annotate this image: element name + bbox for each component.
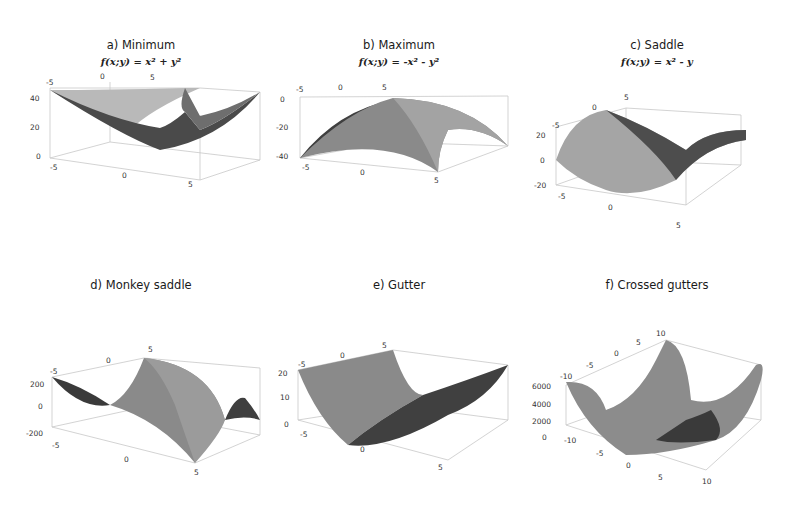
svg-text:0: 0 — [626, 461, 631, 470]
svg-text:4000: 4000 — [532, 400, 551, 409]
svg-text:5: 5 — [676, 221, 681, 230]
svg-text:-5: -5 — [552, 121, 560, 130]
svg-text:0: 0 — [36, 152, 41, 161]
surface-plot-gutter: -505 20100 -505 — [268, 270, 530, 520]
svg-text:-5: -5 — [296, 85, 304, 94]
panel-minimum: a) Minimum f(x;y) = x² + y² -505 40200 -… — [10, 30, 272, 280]
svg-text:5: 5 — [188, 180, 193, 189]
svg-text:0: 0 — [280, 95, 285, 104]
panel-monkey-saddle: d) Monkey saddle -505 2000-200 -505 — [10, 270, 272, 520]
svg-text:200: 200 — [30, 380, 45, 389]
panel-gutter: e) Gutter -505 20100 -505 — [268, 270, 530, 520]
panel-crossed-gutters: f) Crossed gutters -10-50510 60004000200… — [526, 270, 788, 520]
svg-text:0: 0 — [592, 103, 597, 112]
svg-text:0: 0 — [38, 402, 43, 411]
svg-text:0: 0 — [540, 156, 545, 165]
svg-text:0: 0 — [106, 356, 111, 365]
svg-text:-20: -20 — [276, 123, 288, 132]
svg-text:0: 0 — [340, 351, 345, 360]
svg-text:-5: -5 — [586, 361, 594, 370]
svg-text:0: 0 — [542, 433, 547, 442]
svg-text:5: 5 — [624, 93, 629, 102]
svg-text:-200: -200 — [26, 429, 43, 438]
svg-text:-5: -5 — [50, 163, 58, 172]
svg-text:6000: 6000 — [532, 382, 551, 391]
svg-text:-5: -5 — [596, 449, 604, 458]
svg-text:0: 0 — [124, 455, 129, 464]
svg-text:-10: -10 — [564, 436, 576, 445]
panel-maximum: b) Maximum f(x;y) = -x² - y² -505 0-20-4… — [268, 30, 530, 280]
svg-text:0: 0 — [284, 420, 289, 429]
svg-text:40: 40 — [30, 94, 40, 103]
svg-text:5: 5 — [438, 463, 443, 472]
surface-plot-monkey-saddle: -505 2000-200 -505 — [10, 270, 272, 520]
surface-plot-saddle: -505 200-20 -505 — [526, 30, 788, 250]
svg-text:-5: -5 — [302, 163, 310, 172]
svg-text:10: 10 — [656, 329, 666, 338]
svg-text:-5: -5 — [298, 360, 306, 369]
svg-text:20: 20 — [536, 131, 546, 140]
svg-text:5: 5 — [148, 345, 153, 354]
svg-text:5: 5 — [382, 341, 387, 350]
svg-text:0: 0 — [360, 445, 365, 454]
svg-text:-5: -5 — [52, 441, 60, 450]
svg-text:5: 5 — [382, 83, 387, 92]
surface-plot-crossed-gutters: -10-50510 6000400020000 -10-50510 — [526, 270, 788, 520]
svg-text:5: 5 — [194, 468, 199, 477]
svg-text:0: 0 — [100, 72, 105, 81]
svg-text:5: 5 — [150, 73, 155, 82]
svg-text:0: 0 — [360, 168, 365, 177]
panel-saddle: c) Saddle f(x;y) = x² - y -505 200-20 -5… — [526, 30, 788, 280]
svg-text:5: 5 — [658, 473, 663, 482]
svg-text:0: 0 — [338, 83, 343, 92]
svg-text:20: 20 — [30, 123, 40, 132]
surface-plot-maximum: -505 0-20-40 -505 — [268, 30, 530, 250]
svg-text:5: 5 — [434, 176, 439, 185]
svg-text:10: 10 — [702, 477, 712, 486]
svg-text:-20: -20 — [534, 181, 546, 190]
svg-text:-5: -5 — [300, 430, 308, 439]
svg-text:0: 0 — [614, 349, 619, 358]
svg-text:0: 0 — [122, 171, 127, 180]
svg-text:-5: -5 — [558, 192, 566, 201]
svg-text:-5: -5 — [46, 78, 54, 87]
svg-text:10: 10 — [280, 393, 290, 402]
svg-text:-40: -40 — [276, 152, 288, 161]
svg-text:5: 5 — [636, 338, 641, 347]
svg-text:20: 20 — [278, 369, 288, 378]
svg-text:2000: 2000 — [532, 417, 551, 426]
svg-text:-5: -5 — [50, 367, 58, 376]
svg-text:-10: -10 — [560, 372, 572, 381]
surface-plot-minimum: -505 40200 -505 — [10, 30, 272, 250]
svg-text:0: 0 — [608, 203, 613, 212]
